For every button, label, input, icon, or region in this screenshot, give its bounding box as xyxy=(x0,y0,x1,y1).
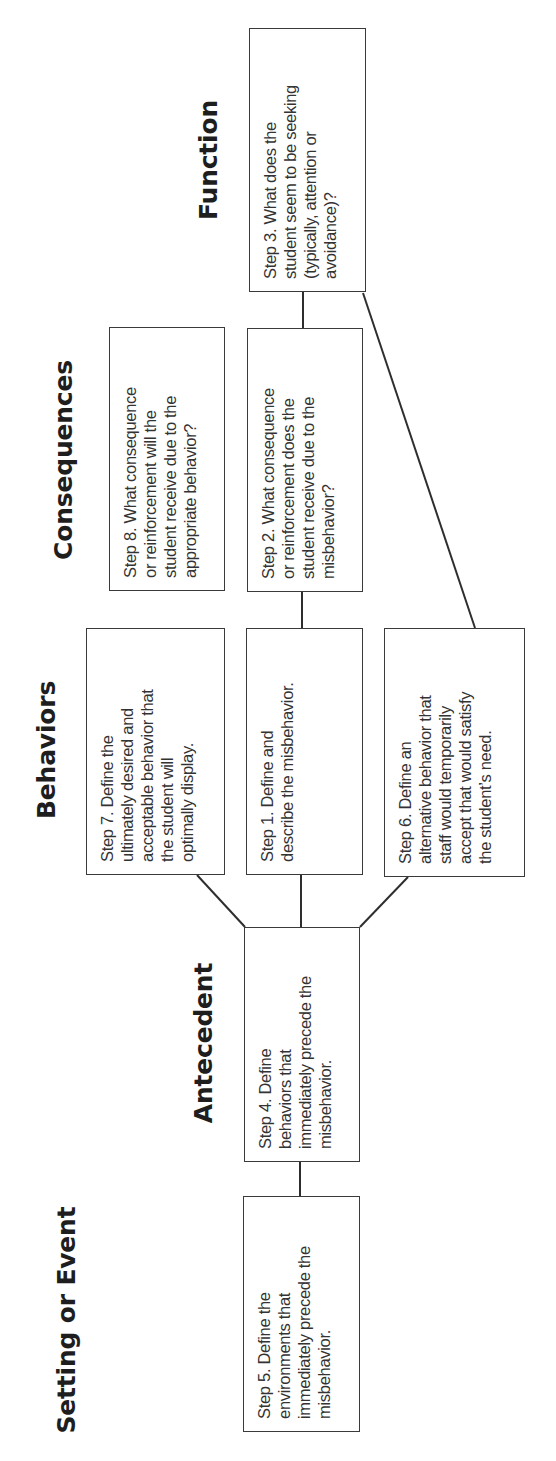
connector-step4-step6 xyxy=(360,877,408,927)
step5-box: Step 5. Define the environments that imm… xyxy=(243,1196,360,1432)
step1-text: Step 1. Define and describe the misbehav… xyxy=(257,639,297,862)
behavior-analysis-diagram: Setting or Event Antecedent Behaviors Co… xyxy=(0,0,556,1461)
step5-text: Step 5. Define the environments that imm… xyxy=(254,1207,334,1419)
step4-box: Step 4. Define behaviors that immediatel… xyxy=(244,927,360,1162)
step6-text: Step 6. Define an alternative behavior t… xyxy=(395,639,495,864)
connector-step4-step7 xyxy=(197,875,245,927)
step7-box: Step 7. Define the ultimately desired an… xyxy=(86,628,225,875)
step8-box: Step 8. What consequence or reinforcemen… xyxy=(109,327,225,591)
step2-box: Step 2. What consequence or reinforcemen… xyxy=(247,328,363,592)
step3-text: Step 3. What does the student seem to be… xyxy=(260,39,340,279)
step3-box: Step 3. What does the student seem to be… xyxy=(249,28,366,292)
step7-text: Step 7. Define the ultimately desired an… xyxy=(97,639,197,862)
step4-text: Step 4. Define behaviors that immediatel… xyxy=(255,938,335,1149)
heading-function: Function xyxy=(194,100,223,220)
heading-setting-or-event: Setting or Event xyxy=(52,1207,81,1434)
step8-text: Step 8. What consequence or reinforcemen… xyxy=(120,338,200,578)
step6-box: Step 6. Define an alternative behavior t… xyxy=(384,628,525,877)
connector-step6-step3 xyxy=(363,293,475,628)
heading-antecedent: Antecedent xyxy=(189,963,218,1123)
step1-box: Step 1. Define and describe the misbehav… xyxy=(246,628,363,875)
step2-text: Step 2. What consequence or reinforcemen… xyxy=(258,339,338,579)
heading-consequences: Consequences xyxy=(49,360,78,560)
heading-behaviors: Behaviors xyxy=(32,681,61,819)
